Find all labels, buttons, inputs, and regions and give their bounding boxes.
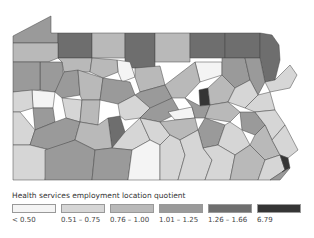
legend-label-2: 0.51 – 0.75 [61, 216, 100, 224]
legend-label-3: 0.76 – 1.00 [110, 216, 149, 224]
county [225, 33, 260, 58]
county [92, 148, 132, 180]
legend-swatch-5 [208, 204, 252, 213]
legend-swatch-1 [12, 204, 56, 213]
legend-label-4: 1.01 – 1.25 [159, 216, 198, 224]
county [80, 100, 100, 125]
choropleth-map [0, 0, 314, 195]
county [92, 33, 125, 58]
county [13, 62, 40, 92]
county [155, 33, 190, 62]
legend-swatch-3 [110, 204, 154, 213]
county [165, 62, 200, 98]
county [190, 33, 225, 58]
county [58, 33, 92, 58]
legend-swatch-6 [257, 204, 301, 213]
county [32, 90, 55, 108]
legend-label-1: < 0.50 [12, 216, 36, 224]
county [13, 43, 58, 62]
legend-label-6: 6.79 [257, 216, 273, 224]
county [205, 102, 240, 122]
county [13, 16, 58, 43]
legend-swatch-2 [61, 204, 105, 213]
legend-label-5: 1.26 – 1.66 [208, 216, 247, 224]
legend-title: Health services employment location quot… [12, 191, 186, 200]
legend-swatch-4 [159, 204, 203, 213]
county [13, 90, 33, 112]
legend: < 0.50 0.51 – 0.75 0.76 – 1.00 1.01 – 1.… [12, 204, 302, 234]
county [13, 145, 50, 180]
